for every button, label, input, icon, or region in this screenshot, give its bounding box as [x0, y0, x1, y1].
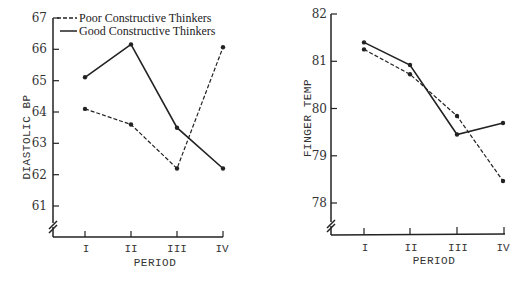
right-ytick-79: 79	[312, 149, 327, 163]
legend-good-label: Good Constructive Thinkers	[79, 24, 216, 38]
right-ytick-82: 82	[312, 7, 327, 21]
right-ytick-80: 80	[312, 102, 327, 116]
right-series-poor-markers	[362, 47, 505, 183]
right-xtick-I: I	[362, 242, 369, 254]
right-xtick-III: III	[448, 242, 468, 254]
left-xtick-I: I	[83, 243, 90, 255]
left-ytick-66: 66	[32, 42, 47, 56]
left-ytick-64: 64	[32, 105, 48, 119]
left-x-axis-title: PERIOD	[134, 257, 177, 269]
right-x-axis	[331, 234, 505, 235]
right-ytick-78: 78	[312, 196, 327, 210]
right-xtick-IV: IV	[496, 242, 510, 254]
left-chart: 67 66 65 64 63 62 61 I II III IV PERIOD …	[21, 11, 229, 269]
figure: 67 66 65 64 63 62 61 I II III IV PERIOD …	[0, 0, 530, 281]
right-series-good-line	[364, 42, 503, 134]
right-x-axis-title: PERIOD	[413, 255, 456, 267]
right-ytick-81: 81	[312, 54, 327, 68]
right-y-axis-title: FINGER TEMP	[302, 79, 314, 157]
right-y-ticks	[331, 14, 337, 203]
left-y-axis-title: DIASTOLIC BP	[21, 94, 33, 179]
left-ytick-62: 62	[32, 168, 47, 182]
right-series-good-markers	[362, 40, 505, 137]
left-ytick-61: 61	[32, 199, 47, 213]
left-xtick-III: III	[167, 243, 187, 255]
left-x-ticks	[85, 231, 223, 237]
left-ytick-63: 63	[32, 136, 47, 150]
right-xtick-II: II	[404, 242, 417, 254]
left-ytick-67: 67	[32, 11, 47, 25]
left-series-good-line	[85, 44, 223, 168]
right-series-poor-line	[364, 49, 503, 181]
legend-poor-label: Poor Constructive Thinkers	[79, 11, 212, 25]
left-y-ticks	[53, 18, 59, 206]
left-xtick-IV: IV	[215, 243, 229, 255]
left-ytick-65: 65	[32, 74, 47, 88]
left-xtick-II: II	[124, 243, 137, 255]
right-chart: 82 81 80 79 78 I II III IV PERIOD FINGER…	[302, 7, 510, 267]
